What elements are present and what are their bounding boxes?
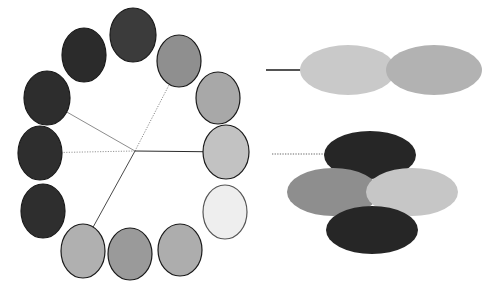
ring-node-n10[interactable]	[18, 126, 62, 180]
ring-node-n08[interactable]	[61, 224, 105, 278]
top-right-ellipse-t2[interactable]	[386, 45, 482, 95]
ring-node-n03[interactable]	[196, 72, 240, 124]
figure-canvas	[0, 0, 492, 295]
ring-edge-n04	[135, 151, 203, 152]
ring-node-n01[interactable]	[110, 8, 156, 62]
ring-node-n12[interactable]	[62, 28, 106, 82]
ring-node-n06[interactable]	[158, 224, 202, 276]
ring-node-n07[interactable]	[108, 228, 152, 280]
bottom-right-ellipse-b4[interactable]	[326, 206, 418, 254]
ring-node-n09[interactable]	[21, 184, 65, 238]
ring-node-n11[interactable]	[24, 71, 70, 125]
ring-node-n05[interactable]	[203, 185, 247, 239]
ring-node-n04[interactable]	[203, 125, 249, 179]
ellipse-diagram-svg	[0, 0, 492, 295]
ring-node-n02[interactable]	[157, 35, 201, 87]
top-right-ellipse-t1[interactable]	[300, 45, 396, 95]
